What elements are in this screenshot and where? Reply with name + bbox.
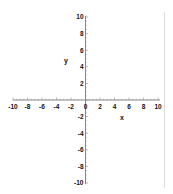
y-tick-label: -2 [78, 113, 84, 120]
x-tick-label: 0 [84, 103, 88, 110]
x-tick-label: -10 [8, 103, 18, 110]
x-tick-label: 2 [98, 103, 102, 110]
x-axis-label: x [120, 114, 124, 121]
x-tick-label: -8 [25, 103, 31, 110]
y-axis-label: y [64, 57, 68, 65]
x-tick-label: 4 [113, 103, 117, 110]
y-tick-label: 8 [80, 30, 84, 37]
y-tick-label: -8 [78, 163, 84, 170]
y-tick-label: -6 [78, 146, 84, 153]
y-axis [86, 16, 89, 184]
y-tick-label: 6 [80, 47, 84, 54]
x-tick-label: -6 [39, 103, 45, 110]
y-tick-label: -10 [74, 179, 84, 186]
y-tick-label: 4 [80, 63, 84, 70]
x-tick-label: -2 [68, 103, 74, 110]
x-tick-label: 8 [142, 103, 146, 110]
x-axis [13, 98, 160, 101]
y-tick-label: 2 [80, 80, 84, 87]
x-tick-label: 10 [154, 103, 162, 110]
y-tick-label: -4 [78, 130, 84, 137]
coordinate-plane: -10-8-6-4-20246810 -10-8-6-4-2246810 x y [0, 0, 173, 194]
x-tick-labels: -10-8-6-4-20246810 [8, 103, 162, 110]
y-tick-label: 10 [76, 13, 84, 20]
x-tick-label: -4 [54, 103, 60, 110]
x-tick-label: 6 [127, 103, 131, 110]
